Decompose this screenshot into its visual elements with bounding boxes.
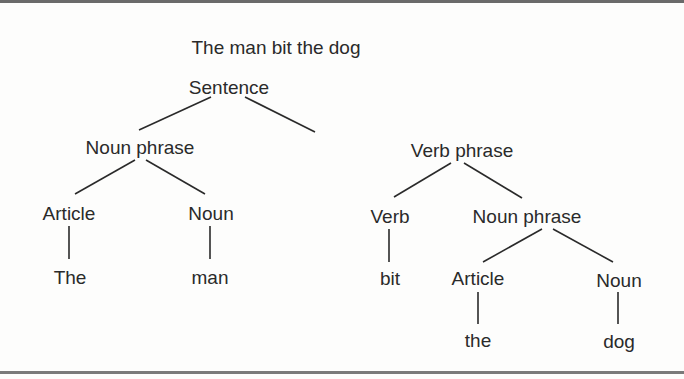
node-noun-phrase-object: Noun phrase (473, 207, 582, 226)
word-dog: dog (603, 332, 635, 351)
node-noun-subject: Noun (188, 204, 233, 223)
edge-np-article (75, 160, 135, 194)
word-bit: bit (380, 269, 400, 288)
node-noun-object: Noun (596, 271, 641, 290)
node-noun-phrase-subject: Noun phrase (86, 138, 195, 157)
diagram-title: The man bit the dog (192, 38, 361, 57)
word-the-capital: The (54, 268, 87, 287)
node-verb-phrase: Verb phrase (411, 141, 513, 160)
edge-np-noun (146, 160, 205, 194)
node-verb: Verb (370, 207, 409, 226)
edge-vp-np (464, 163, 522, 198)
edge-np2-noun (553, 229, 613, 262)
word-man: man (192, 268, 229, 287)
node-article-object: Article (452, 269, 505, 288)
edge-sentence-np (139, 97, 211, 130)
word-the: the (465, 331, 491, 350)
edge-vp-verb (394, 163, 451, 197)
node-article-subject: Article (43, 204, 96, 223)
edge-np2-article (483, 229, 542, 262)
bottom-border-rule (0, 371, 684, 374)
node-sentence: Sentence (189, 78, 269, 97)
edge-sentence-vp (245, 97, 315, 132)
